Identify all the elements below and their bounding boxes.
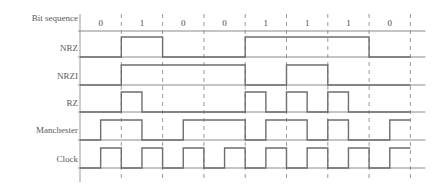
svg-text:0: 0 xyxy=(181,18,186,28)
svg-text:1: 1 xyxy=(140,18,145,28)
line-coding-diagram: Bit sequence NRZ NRZI RZ Manchester Cloc… xyxy=(0,0,434,190)
svg-text:1: 1 xyxy=(305,18,310,28)
svg-text:0: 0 xyxy=(222,18,227,28)
baselines xyxy=(78,31,425,168)
svg-text:0: 0 xyxy=(98,18,103,28)
svg-text:1: 1 xyxy=(346,18,351,28)
svg-text:0: 0 xyxy=(388,18,393,28)
waveform-canvas: 01001110 xyxy=(0,0,434,190)
svg-text:1: 1 xyxy=(264,18,269,28)
